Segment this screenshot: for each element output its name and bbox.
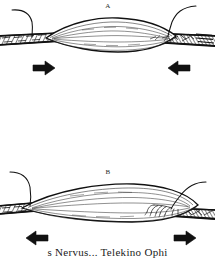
figure-caption: s Nervus... Telekino Ophi xyxy=(0,246,215,258)
panel-label-a: A xyxy=(100,2,116,10)
panel-label-b: B xyxy=(100,168,116,176)
